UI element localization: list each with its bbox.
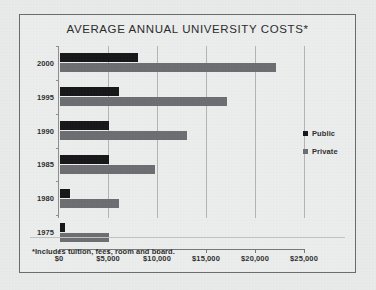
bar-private-1990	[60, 131, 187, 140]
bar-public-1990	[60, 121, 109, 130]
y-axis-tick	[56, 46, 59, 47]
bar-public-2000	[60, 53, 138, 62]
y-axis-tick-label: 1985	[37, 160, 54, 169]
screenshot-page: AVERAGE ANNUAL UNIVERSITY COSTS* $0$5,00…	[0, 0, 376, 290]
bar-private-1985	[60, 165, 155, 174]
bar-private-2000	[60, 63, 276, 72]
x-axis-tick-labels: $0$5,000$10,000$15,000$20,000$25,000	[59, 254, 304, 268]
chart-title: AVERAGE ANNUAL UNIVERSITY COSTS*	[20, 23, 355, 35]
x-axis-tick	[206, 249, 207, 253]
chart-legend: Public Private	[303, 129, 338, 165]
y-axis-tick-label: 1990	[37, 126, 54, 135]
bar-public-1985	[60, 155, 109, 164]
x-axis-tick-label: $20,000	[241, 254, 269, 263]
y-axis-tick-label: 1980	[37, 194, 54, 203]
legend-label-private: Private	[312, 147, 338, 156]
chart-figure: AVERAGE ANNUAL UNIVERSITY COSTS* $0$5,00…	[19, 14, 356, 273]
y-axis-tick	[56, 80, 59, 81]
x-axis-tick	[304, 249, 305, 253]
y-axis-tick	[56, 114, 59, 115]
legend-item-public: Public	[303, 129, 338, 138]
y-axis-tick	[56, 181, 59, 182]
y-axis-tick	[56, 148, 59, 149]
y-axis-tick-label: 1995	[37, 92, 54, 101]
y-axis-tick-label: 1975	[37, 228, 54, 237]
plot-area: $0$5,000$10,000$15,000$20,000$25,000 200…	[58, 46, 303, 218]
bar-public-1975	[60, 223, 65, 232]
footnote-divider	[30, 237, 345, 238]
y-axis-tick	[56, 215, 59, 216]
legend-label-public: Public	[312, 129, 335, 138]
legend-item-private: Private	[303, 147, 338, 156]
x-axis-tick-label: $15,000	[192, 254, 220, 263]
bar-private-1980	[60, 199, 119, 208]
bar-public-1995	[60, 87, 119, 96]
y-axis-tick-label: 2000	[37, 58, 54, 67]
chart-footnote: *Includes tuition, fees, room and board.	[32, 247, 175, 256]
x-axis-tick	[255, 249, 256, 253]
legend-swatch-icon-public	[303, 131, 308, 136]
x-axis-tick-label: $25,000	[290, 254, 318, 263]
bar-private-1995	[60, 97, 227, 106]
legend-swatch-icon-private	[303, 149, 308, 154]
bar-public-1980	[60, 189, 70, 198]
